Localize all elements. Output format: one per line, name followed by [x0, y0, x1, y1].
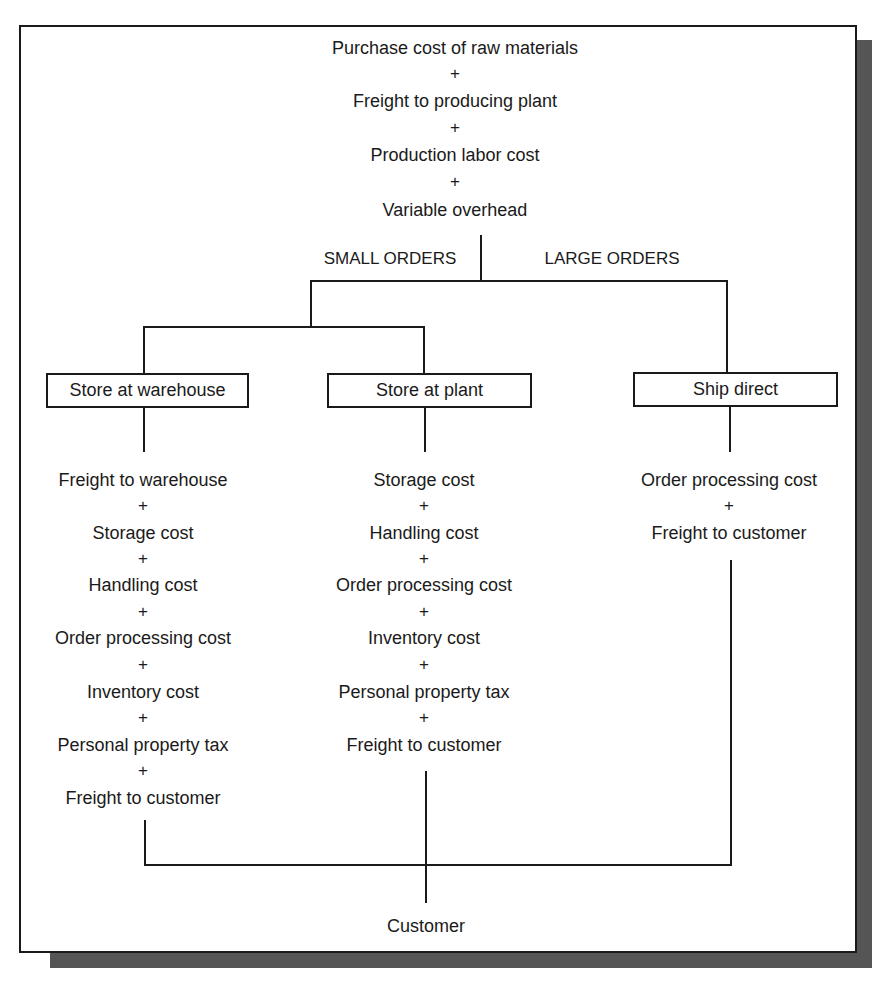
- small-orders-label: SMALL ORDERS: [324, 249, 457, 269]
- store-at-warehouse-box: Store at warehouse: [46, 373, 249, 408]
- direct-item: Freight to customer: [651, 523, 806, 543]
- top-item-variable-overhead: Variable overhead: [383, 200, 528, 220]
- warehouse-item: Order processing cost: [55, 628, 231, 648]
- top-item-labor-cost: Production labor cost: [370, 145, 539, 165]
- plus-sign: +: [419, 549, 429, 569]
- connector-line: [143, 408, 145, 452]
- plant-item: Personal property tax: [338, 682, 509, 702]
- plus-sign: +: [419, 496, 429, 516]
- connector-line: [144, 820, 146, 866]
- connector-line: [480, 235, 482, 282]
- plus-sign: +: [138, 655, 148, 675]
- warehouse-item: Storage cost: [92, 523, 193, 543]
- top-item-purchase-cost: Purchase cost of raw materials: [332, 38, 578, 58]
- connector-line: [729, 406, 731, 452]
- plus-sign: +: [450, 172, 460, 192]
- connector-line: [423, 326, 425, 374]
- warehouse-item: Freight to warehouse: [58, 470, 227, 490]
- plant-item: Freight to customer: [346, 735, 501, 755]
- connector-line: [424, 407, 426, 452]
- plus-sign: +: [138, 761, 148, 781]
- connector-line: [143, 326, 425, 328]
- connector-line: [143, 326, 145, 374]
- connector-line: [310, 280, 312, 328]
- plant-item: Handling cost: [369, 523, 478, 543]
- plant-item: Inventory cost: [368, 628, 480, 648]
- plus-sign: +: [419, 655, 429, 675]
- plus-sign: +: [138, 708, 148, 728]
- connector-line: [144, 864, 732, 866]
- connector-line: [425, 771, 427, 903]
- store-at-plant-box: Store at plant: [327, 373, 532, 408]
- top-item-freight-plant: Freight to producing plant: [353, 91, 557, 111]
- warehouse-item: Inventory cost: [87, 682, 199, 702]
- plus-sign: +: [450, 64, 460, 84]
- customer-label: Customer: [387, 916, 465, 936]
- plus-sign: +: [138, 549, 148, 569]
- warehouse-item: Freight to customer: [65, 788, 220, 808]
- connector-line: [310, 280, 728, 282]
- direct-item: Order processing cost: [641, 470, 817, 490]
- plant-item: Order processing cost: [336, 575, 512, 595]
- plus-sign: +: [450, 118, 460, 138]
- warehouse-item: Handling cost: [88, 575, 197, 595]
- warehouse-item: Personal property tax: [57, 735, 228, 755]
- connector-line: [726, 280, 728, 373]
- plus-sign: +: [138, 602, 148, 622]
- connector-line: [730, 560, 732, 866]
- ship-direct-box: Ship direct: [633, 372, 838, 407]
- plus-sign: +: [419, 708, 429, 728]
- plus-sign: +: [138, 496, 148, 516]
- large-orders-label: LARGE ORDERS: [544, 249, 679, 269]
- plus-sign: +: [419, 602, 429, 622]
- plant-item: Storage cost: [373, 470, 474, 490]
- plus-sign: +: [724, 496, 734, 516]
